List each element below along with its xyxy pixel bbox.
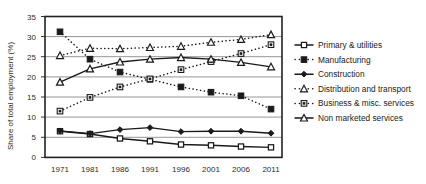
legend-label: Business & misc. services bbox=[318, 98, 414, 108]
data-point bbox=[270, 43, 273, 46]
legend-symbol bbox=[303, 102, 306, 105]
data-point bbox=[238, 93, 244, 99]
x-tick-label: 2011 bbox=[262, 165, 280, 174]
data-point bbox=[89, 96, 92, 99]
data-point bbox=[147, 139, 152, 144]
plot-area bbox=[45, 17, 282, 158]
legend-label: Distribution and transport bbox=[318, 84, 411, 94]
x-tick-label: 1996 bbox=[172, 165, 190, 174]
legend-symbol bbox=[301, 57, 307, 63]
data-point bbox=[208, 89, 214, 95]
y-tick-label: 15 bbox=[27, 93, 36, 102]
data-point bbox=[240, 52, 243, 55]
data-point bbox=[117, 136, 122, 141]
x-tick-label: 1981 bbox=[81, 165, 99, 174]
legend-label: Construction bbox=[318, 69, 365, 79]
x-tick-label: 2006 bbox=[232, 165, 250, 174]
legend-label: Manufacturing bbox=[318, 55, 371, 65]
x-tick-label: 2001 bbox=[202, 165, 220, 174]
employment-share-chart: Share of total employment (%) 35 30 25 2… bbox=[0, 0, 426, 184]
data-point bbox=[180, 68, 183, 71]
data-point bbox=[268, 106, 274, 112]
y-tick-label: 20 bbox=[27, 73, 36, 82]
legend-label: Non marketed services bbox=[318, 113, 403, 123]
data-point bbox=[238, 144, 243, 149]
y-tick-label: 10 bbox=[27, 113, 36, 122]
x-tick-label: 1986 bbox=[111, 165, 129, 174]
legend-symbol bbox=[301, 42, 306, 47]
legend-label: Primary & utilities bbox=[318, 40, 382, 50]
x-tick-label: 1991 bbox=[141, 165, 159, 174]
data-point bbox=[119, 86, 122, 89]
y-tick-label: 30 bbox=[27, 33, 36, 42]
y-tick-label: 35 bbox=[27, 13, 36, 22]
y-tick-label: 0 bbox=[32, 153, 37, 162]
y-axis-title: Share of total employment (%) bbox=[6, 42, 15, 150]
data-point bbox=[268, 145, 273, 150]
x-tick-label: 1971 bbox=[51, 165, 69, 174]
data-point bbox=[57, 29, 63, 35]
data-point bbox=[208, 143, 213, 148]
data-point bbox=[117, 69, 123, 75]
data-point bbox=[178, 84, 184, 90]
data-point bbox=[149, 78, 152, 81]
data-point bbox=[87, 56, 93, 62]
y-tick-label: 25 bbox=[27, 53, 36, 62]
data-point bbox=[59, 110, 62, 113]
chart-canvas: Share of total employment (%) 35 30 25 2… bbox=[0, 0, 426, 184]
data-point bbox=[178, 142, 183, 147]
y-tick-label: 5 bbox=[32, 133, 37, 142]
